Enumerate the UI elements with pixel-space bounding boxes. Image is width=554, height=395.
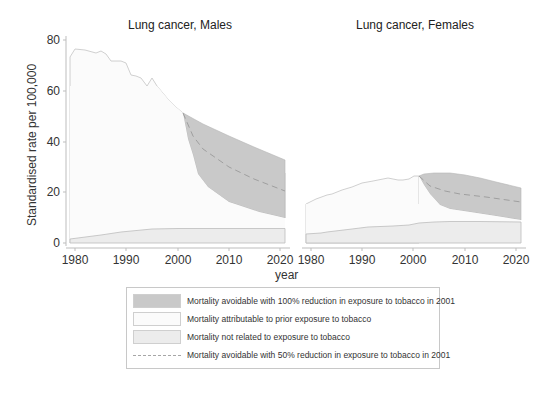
- females-x-tick-2010: 2010: [451, 253, 479, 267]
- males-x-tick-1980: 1980: [61, 253, 89, 267]
- x-axis-label: year: [275, 268, 298, 282]
- legend-item-avoidable-100: Mortality avoidable with 100% reduction …: [133, 294, 455, 308]
- males-panel: [63, 36, 290, 251]
- legend-label: Mortality avoidable with 100% reduction …: [187, 296, 455, 306]
- y-tick-0: 0: [44, 236, 60, 250]
- males-x-tick-2010: 2010: [215, 253, 243, 267]
- legend-item-attributable-prior: Mortality attributable to prior exposure…: [133, 312, 371, 326]
- females-panel-title: Lung cancer, Females: [335, 18, 495, 32]
- legend-item-avoidable-50: Mortality avoidable with 50% reduction i…: [133, 348, 450, 362]
- females-x-tick-1990: 1990: [348, 253, 376, 267]
- females-x-tick-1980: 1980: [297, 253, 325, 267]
- y-tick-60: 60: [44, 84, 60, 98]
- legend-label: Mortality not related to exposure to tob…: [187, 332, 350, 342]
- males-x-tick-2020: 2020: [266, 253, 294, 267]
- legend-item-not-related: Mortality not related to exposure to tob…: [133, 330, 350, 344]
- legend-swatch-white: [133, 312, 181, 326]
- legend-swatch-light: [133, 330, 181, 344]
- y-axis-label: Standardised rate per 100,000: [25, 64, 39, 226]
- males-x-tick-1990: 1990: [112, 253, 140, 267]
- legend-label: Mortality avoidable with 50% reduction i…: [187, 350, 450, 360]
- y-tick-40: 40: [44, 135, 60, 149]
- y-tick-80: 80: [44, 33, 60, 47]
- females-panel: [302, 173, 526, 251]
- legend-label: Mortality attributable to prior exposure…: [187, 314, 371, 324]
- legend-swatch-dark: [133, 294, 181, 308]
- males-x-tick-2000: 2000: [164, 253, 192, 267]
- males-panel-title: Lung cancer, Males: [100, 18, 260, 32]
- legend-dashed-line-icon: [133, 355, 181, 356]
- females-x-tick-2020: 2020: [502, 253, 530, 267]
- legend: Mortality avoidable with 100% reduction …: [126, 287, 440, 369]
- females-x-tick-2000: 2000: [399, 253, 427, 267]
- y-tick-20: 20: [44, 185, 60, 199]
